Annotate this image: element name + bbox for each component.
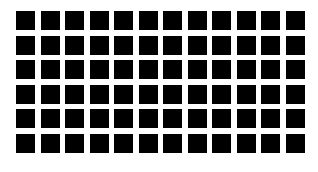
square-grid [16,11,305,153]
grid-square [114,60,133,79]
grid-square [286,85,305,104]
grid-square [188,36,207,55]
grid-square [212,134,231,153]
grid-square [286,109,305,128]
grid-square [114,109,133,128]
grid-square [16,36,35,55]
grid-square [65,109,84,128]
grid-square [41,36,60,55]
grid-square [90,85,109,104]
grid-square [261,85,280,104]
grid-square [261,60,280,79]
grid-square [286,60,305,79]
grid-square [212,85,231,104]
grid-square [139,36,158,55]
grid-square [114,11,133,30]
grid-square [188,60,207,79]
grid-square [261,134,280,153]
grid-square [188,85,207,104]
grid-square [41,109,60,128]
grid-square [212,36,231,55]
grid-square [65,11,84,30]
grid-square [163,11,182,30]
grid-square [237,109,256,128]
grid-square [16,85,35,104]
grid-square [16,134,35,153]
grid-square [41,85,60,104]
grid-square [237,11,256,30]
grid-square [90,36,109,55]
grid-square [163,60,182,79]
grid-square [212,109,231,128]
grid-square [90,134,109,153]
grid-square [237,36,256,55]
grid-square [261,36,280,55]
grid-square [163,85,182,104]
grid-square [65,60,84,79]
grid-square [41,11,60,30]
grid-square [139,60,158,79]
grid-square [237,60,256,79]
grid-square [163,36,182,55]
grid-square [114,36,133,55]
grid-square [261,11,280,30]
grid-square [163,134,182,153]
grid-square [212,11,231,30]
grid-square [237,134,256,153]
grid-square [188,134,207,153]
grid-square [188,109,207,128]
grid-square [261,109,280,128]
grid-square [114,85,133,104]
grid-square [286,134,305,153]
grid-square [16,109,35,128]
grid-square [139,11,158,30]
grid-square [286,36,305,55]
grid-square [65,85,84,104]
grid-square [90,60,109,79]
grid-square [65,36,84,55]
grid-square [163,109,182,128]
grid-square [286,11,305,30]
grid-square [139,109,158,128]
grid-square [16,11,35,30]
grid-square [139,85,158,104]
grid-square [41,134,60,153]
grid-square [65,134,84,153]
grid-square [16,60,35,79]
grid-square [237,85,256,104]
grid-square [90,109,109,128]
grid-square [139,134,158,153]
grid-square [188,11,207,30]
grid-square [212,60,231,79]
grid-square [114,134,133,153]
grid-square [41,60,60,79]
grid-square [90,11,109,30]
